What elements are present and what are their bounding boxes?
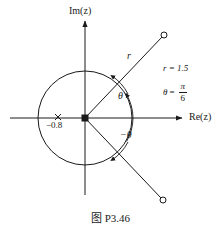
equals-sign: = <box>169 88 174 97</box>
radius-label: r <box>127 51 131 61</box>
theta-symbol: θ <box>163 88 167 97</box>
figure-container: Im(z) Re(z) r θ −θ −0.8 r = 1.5 θ = π 6 … <box>0 0 221 233</box>
radius-equation-annotation: r = 1.5 <box>163 64 188 73</box>
pi-over-six-fraction: π 6 <box>179 82 188 103</box>
pole-value-label: −0.8 <box>46 121 62 130</box>
angle-label-negative: −θ <box>120 130 132 140</box>
theta-equation-annotation: θ = π 6 <box>163 82 187 103</box>
imaginary-axis-label: Im(z) <box>69 6 91 16</box>
fraction-denominator: 6 <box>179 93 188 103</box>
angle-arc-negative-tail <box>112 142 128 160</box>
zero-marker-lower <box>160 197 166 203</box>
origin-marker <box>82 115 89 122</box>
ray-upper <box>85 37 162 118</box>
real-axis-label: Re(z) <box>189 112 211 122</box>
figure-caption: 图 P3.46 <box>0 209 221 225</box>
angle-label-positive: θ <box>118 91 123 101</box>
zero-marker-upper <box>161 32 167 38</box>
fraction-numerator: π <box>179 82 188 92</box>
complex-plane-diagram <box>0 0 221 233</box>
